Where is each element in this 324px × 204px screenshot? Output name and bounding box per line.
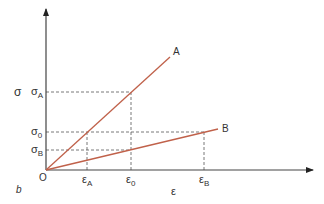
line-b-label: B [222, 123, 229, 134]
x-tick-epsilon-0: ε0 [126, 173, 136, 188]
x-tick-epsilon-a: εA [82, 173, 93, 188]
dashed-guides [46, 92, 204, 170]
line-b [46, 129, 218, 170]
panel-label: b [16, 184, 22, 195]
stress-strain-diagram: A B σ σA σ0 σB O εA ε0 εB ε b [0, 0, 324, 204]
line-a-label: A [173, 46, 180, 57]
y-tick-sigma-b: σB [31, 143, 43, 158]
y-tick-sigma-0: σ0 [31, 125, 43, 140]
line-a [46, 57, 170, 170]
origin-label: O [39, 172, 47, 183]
x-axis-label: ε [171, 185, 176, 197]
x-tick-epsilon-b: εB [199, 173, 209, 188]
y-axis-label: σ [14, 85, 22, 99]
y-tick-sigma-a: σA [31, 85, 44, 100]
